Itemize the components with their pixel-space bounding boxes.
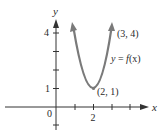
function-graph: y x 0 2 1 4 (3, 4) (2, 1) y = f(x) (0, 0, 165, 137)
curve-right-arrow-icon (108, 22, 115, 31)
vertex-point (92, 87, 95, 90)
x-axis (5, 104, 149, 110)
curve-f (70, 22, 115, 90)
x-tick-label-2: 2 (91, 112, 96, 123)
curve-label-eq: = (115, 53, 126, 64)
point-label-top: (3, 4) (117, 28, 139, 40)
point-label-vertex: (2, 1) (97, 86, 119, 98)
y-tick-label-4: 4 (44, 27, 49, 38)
origin-label: 0 (47, 108, 52, 119)
x-axis-label: x (151, 101, 157, 113)
x-axis-arrow-icon (140, 104, 149, 110)
y-axis (53, 19, 59, 130)
y-axis-arrow-icon (53, 19, 59, 28)
curve-label-x: (x) (129, 53, 141, 65)
curve-label: y = f(x) (110, 53, 141, 65)
y-axis-label: y (52, 5, 58, 17)
y-tick-label-1: 1 (45, 83, 50, 94)
curve-left-arrow-icon (70, 22, 77, 32)
